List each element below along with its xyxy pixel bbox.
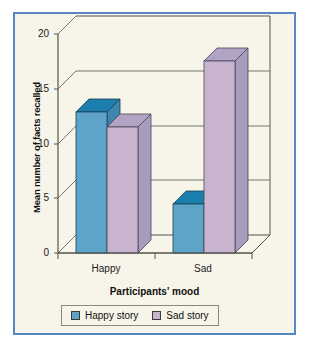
- bar-sad-sadstory: [204, 48, 248, 253]
- legend-label-happy-story: Happy story: [85, 310, 138, 321]
- legend-entry-happy-story: Happy story: [71, 310, 138, 321]
- bar-happy-sadstory: [107, 114, 151, 253]
- ytick-label-0: 0: [27, 248, 49, 258]
- legend-entry-sad-story: Sad story: [152, 310, 208, 321]
- chart-legend: Happy story Sad story: [61, 305, 219, 326]
- y-axis-title: Mean number of facts recalled: [31, 78, 42, 218]
- bar-chart: 20 15 10 5 0 Happy Sad Mean number of fa…: [15, 14, 294, 333]
- legend-swatch-happy-story: [71, 311, 80, 320]
- page-root: 20 15 10 5 0 Happy Sad Mean number of fa…: [0, 0, 309, 348]
- x-axis-title: Participants' mood: [15, 286, 294, 297]
- figure-frame: 20 15 10 5 0 Happy Sad Mean number of fa…: [13, 12, 296, 335]
- xtick-label-happy: Happy: [71, 263, 141, 274]
- legend-swatch-sad-story: [152, 311, 161, 320]
- xtick-label-sad: Sad: [168, 263, 238, 274]
- figure-canvas: 20 15 10 5 0 Happy Sad Mean number of fa…: [15, 14, 294, 333]
- legend-label-sad-story: Sad story: [166, 310, 208, 321]
- ytick-label-20: 20: [27, 29, 49, 39]
